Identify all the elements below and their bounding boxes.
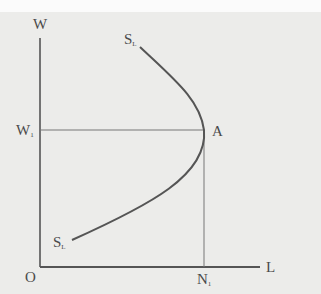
w1-label: W1 (16, 123, 34, 139)
y-axis-label: W (33, 17, 47, 32)
supply-curve-bottom-label: SL (53, 235, 66, 251)
n1-label: N1 (197, 272, 211, 288)
origin-label: O (25, 270, 36, 285)
supply-curve-top-label: SL (124, 32, 137, 48)
diagram-canvas (0, 0, 321, 294)
x-axis-label: L (266, 260, 275, 275)
labour-supply-curve (72, 47, 204, 240)
point-a-label: A (212, 124, 223, 139)
